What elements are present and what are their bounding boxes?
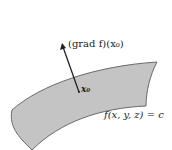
gradient-label: (grad f)(x₀) [68, 38, 124, 49]
level-surface [11, 62, 157, 150]
surface-equation-label: f(x, y, z) = c [104, 109, 164, 120]
point-label: x₀ [81, 84, 90, 94]
arrowhead-icon [60, 43, 66, 50]
point-marker [78, 91, 80, 93]
diagram-canvas [0, 0, 172, 150]
